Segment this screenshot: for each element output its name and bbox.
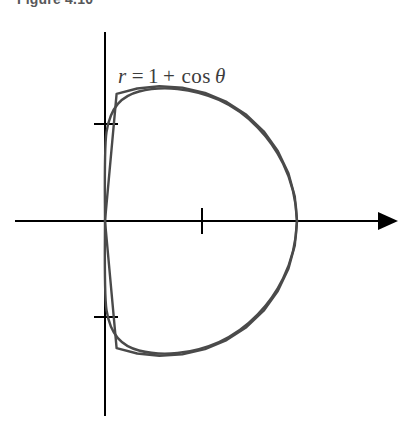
equation-plus-sign: + bbox=[159, 64, 179, 88]
figure-page: Figure 4.10 r=1+cosθ bbox=[0, 0, 402, 424]
equation-label: r=1+cosθ bbox=[118, 64, 226, 89]
equation-constant-one: 1 bbox=[148, 64, 159, 88]
equation-variable-r: r bbox=[118, 64, 128, 88]
equation-equals-sign: = bbox=[128, 64, 148, 88]
x-axis-arrowhead bbox=[378, 212, 398, 230]
equation-variable-theta: θ bbox=[211, 64, 226, 88]
equation-cosine-function: cos bbox=[179, 64, 211, 88]
